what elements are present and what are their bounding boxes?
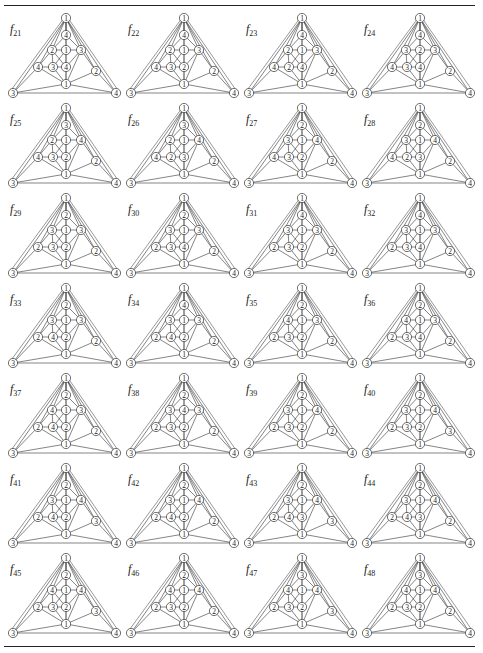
svg-text:1: 1	[418, 530, 422, 539]
vertex: 1	[61, 463, 70, 472]
figure-index: 30	[131, 209, 139, 218]
vertex: 2	[33, 332, 42, 341]
vertex: 1	[297, 495, 306, 504]
svg-text:1: 1	[64, 170, 68, 179]
svg-text:1: 1	[418, 80, 422, 89]
svg-text:3: 3	[182, 121, 186, 130]
vertex: 1	[61, 315, 70, 324]
vertex: 1	[297, 529, 306, 538]
vertex: 3	[76, 45, 85, 54]
vertex: 3	[244, 268, 253, 277]
vertex: 2	[297, 480, 306, 489]
figure-index: 26	[131, 119, 139, 128]
svg-text:2: 2	[94, 427, 98, 436]
vertex: 2	[297, 120, 306, 129]
vertex: 4	[297, 62, 306, 71]
svg-text:4: 4	[154, 153, 158, 162]
svg-text:3: 3	[286, 136, 290, 145]
vertex: 3	[284, 332, 293, 341]
vertex: 3	[402, 422, 411, 431]
vertex: 3	[91, 606, 100, 615]
svg-text:1: 1	[418, 554, 422, 563]
vertex: 2	[47, 135, 56, 144]
figure-f47: 134142323134f47	[240, 548, 358, 638]
svg-text:3: 3	[365, 89, 369, 98]
svg-text:1: 1	[300, 620, 304, 629]
vertex: 4	[111, 178, 120, 187]
svg-text:3: 3	[94, 517, 98, 526]
svg-text:4: 4	[182, 243, 186, 252]
vertex: 2	[33, 242, 42, 251]
graph-drawing: 123142322134	[240, 368, 358, 458]
svg-text:1: 1	[418, 440, 422, 449]
vertex: 3	[48, 62, 57, 71]
vertex: 2	[445, 66, 454, 75]
svg-text:1: 1	[418, 586, 422, 595]
svg-text:2: 2	[390, 243, 394, 252]
vertex: 1	[179, 259, 188, 268]
vertex: 3	[165, 495, 174, 504]
svg-text:1: 1	[300, 80, 304, 89]
figure-f48: 134142322134f48	[358, 548, 476, 638]
figure-f31: 143132322134f31	[240, 188, 358, 278]
vertex: 3	[166, 422, 175, 431]
figure-index: 29	[13, 209, 21, 218]
svg-text:3: 3	[300, 513, 304, 522]
vertex: 3	[76, 405, 85, 414]
svg-text:1: 1	[182, 586, 186, 595]
vertex: 4	[347, 448, 356, 457]
svg-text:2: 2	[212, 517, 216, 526]
svg-text:2: 2	[418, 46, 422, 55]
svg-text:1: 1	[418, 464, 422, 473]
svg-text:3: 3	[79, 316, 83, 325]
vertex: 3	[284, 152, 293, 161]
figure-index: 44	[367, 479, 375, 488]
figure-label: f45	[10, 562, 21, 578]
vertex: 4	[111, 88, 120, 97]
vertex: 2	[209, 426, 218, 435]
figure-index: 31	[249, 209, 257, 218]
svg-text:1: 1	[418, 284, 422, 293]
svg-text:1: 1	[300, 530, 304, 539]
svg-text:2: 2	[418, 423, 422, 432]
svg-text:2: 2	[64, 513, 68, 522]
svg-text:4: 4	[300, 211, 304, 220]
vertex: 4	[33, 62, 42, 71]
svg-text:1: 1	[64, 496, 68, 505]
vertex: 2	[47, 45, 56, 54]
svg-text:1: 1	[64, 194, 68, 203]
vertex: 3	[327, 606, 336, 615]
vertex: 4	[297, 210, 306, 219]
vertex: 1	[297, 585, 306, 594]
figure-f21: 142134342134f21	[4, 8, 122, 98]
figure-f37: 124132422134f37	[4, 368, 122, 458]
svg-text:3: 3	[448, 427, 452, 436]
svg-text:3: 3	[79, 406, 83, 415]
figure-index: 22	[131, 29, 139, 38]
vertex: 3	[362, 88, 371, 97]
figure-f45: 124142323134f45	[4, 548, 122, 638]
vertex: 4	[229, 628, 238, 637]
svg-text:2: 2	[50, 46, 54, 55]
vertex: 2	[415, 602, 424, 611]
svg-text:4: 4	[350, 539, 354, 548]
vertex: 2	[269, 512, 278, 521]
svg-text:3: 3	[79, 46, 83, 55]
vertex: 1	[415, 193, 424, 202]
graph-drawing: 143132422134	[122, 278, 240, 368]
vertex: 2	[297, 242, 306, 251]
vertex: 1	[179, 103, 188, 112]
svg-text:2: 2	[448, 247, 452, 256]
svg-text:2: 2	[64, 481, 68, 490]
vertex: 4	[430, 135, 439, 144]
vertex: 3	[430, 225, 439, 234]
figure-index: 43	[249, 479, 257, 488]
figure-index: 24	[367, 29, 375, 38]
vertex: 4	[229, 538, 238, 547]
svg-text:3: 3	[79, 226, 83, 235]
svg-text:3: 3	[247, 179, 251, 188]
vertex: 2	[297, 152, 306, 161]
figure-index: 42	[131, 479, 139, 488]
svg-text:1: 1	[300, 316, 304, 325]
graph-drawing: 132144232134	[122, 98, 240, 188]
